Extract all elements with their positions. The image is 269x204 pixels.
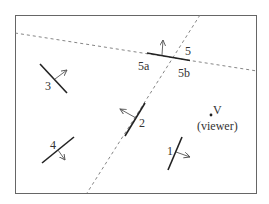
segment-5a-label: 5a bbox=[138, 59, 150, 73]
viewer-caption: (viewer) bbox=[197, 119, 238, 133]
segment-5-label: 5 bbox=[185, 44, 191, 58]
segment-2-label: 2 bbox=[139, 116, 145, 130]
segment-4-label: 4 bbox=[50, 138, 56, 152]
segment-3-label: 3 bbox=[45, 79, 51, 93]
segment-5b-label: 5b bbox=[178, 66, 190, 80]
bsp-diagram: 5 5a 5b 3 2 4 1 V (viewer) bbox=[0, 0, 269, 204]
viewer-dot-icon bbox=[210, 114, 213, 117]
viewer-label: V bbox=[213, 103, 222, 117]
segment-1-label: 1 bbox=[167, 144, 173, 158]
